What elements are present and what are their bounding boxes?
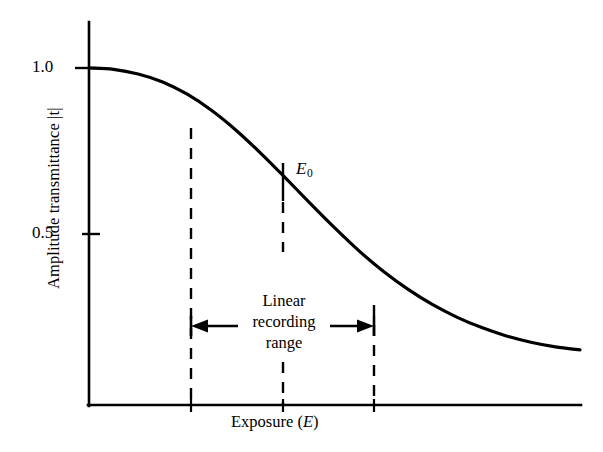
y-tick-label-0.5: 0.5 <box>32 224 53 241</box>
figure-amplitude-transmittance-vs-exposure: Amplitude transmittance |t| 1.0 0.5 E0 L… <box>0 0 603 452</box>
x-axis-label-suffix: ) <box>313 412 319 431</box>
x-axis-label-variable: E <box>303 412 313 431</box>
linear-range-line-2: recording <box>248 311 319 332</box>
linear-range-line-1: Linear <box>219 290 349 311</box>
arrowhead-left <box>191 320 208 333</box>
y-axis-ticks <box>75 68 100 234</box>
linear-range-line-3: range <box>219 332 349 353</box>
e0-subscript: 0 <box>307 167 313 179</box>
x-axis-label: Exposure (E) <box>231 414 319 431</box>
y-tick-label-1.0: 1.0 <box>32 58 53 75</box>
x-axis-label-prefix: Exposure ( <box>231 412 303 431</box>
arrowhead-right <box>357 320 374 333</box>
plot-canvas <box>0 0 603 452</box>
linear-recording-range-label: Linear recording range <box>219 290 349 353</box>
e0-annotation-label: E0 <box>296 160 312 177</box>
y-axis-label: Amplitude transmittance |t| <box>46 68 63 328</box>
e0-variable: E <box>296 159 306 178</box>
